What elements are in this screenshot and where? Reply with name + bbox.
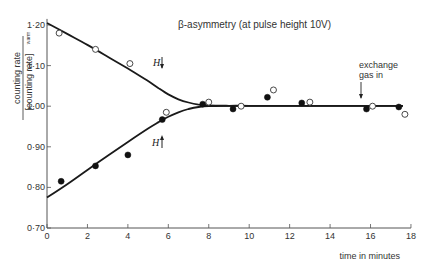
- y-tick-label: 0·80: [27, 182, 45, 192]
- exchange-label-line2: gas in: [359, 70, 383, 80]
- y-axis-label: counting rate [counting rate] warm: [12, 32, 34, 120]
- filled-data-point: [264, 94, 270, 100]
- filled-data-point: [159, 117, 165, 123]
- h-up-annotation: H: [151, 135, 164, 148]
- h-down-label: H: [152, 57, 161, 68]
- y-label-subscript: warm: [25, 32, 31, 44]
- chart-title: β-asymmetry (at pulse height 10V): [178, 19, 331, 30]
- data-points: [56, 30, 408, 184]
- h-up-label: H: [151, 137, 160, 148]
- h-down-annotation: H: [152, 57, 164, 69]
- axes: 0246810121416180·700·800·901·001·101·20: [27, 19, 416, 241]
- y-tick-label: 0·90: [27, 142, 45, 152]
- x-axis-label: time in minutes: [339, 251, 400, 261]
- y-label-denominator: [counting rate]: [24, 53, 34, 110]
- filled-data-point: [363, 106, 369, 112]
- y-tick-label: 0·70: [27, 223, 45, 233]
- open-data-point: [270, 87, 276, 93]
- fit-curves: [47, 23, 403, 198]
- open-data-point: [307, 99, 313, 105]
- open-data-point: [163, 109, 169, 115]
- open-data-point: [402, 111, 408, 117]
- y-tick-label: 1·20: [27, 20, 45, 30]
- asymmetry-chart: 0246810121416180·700·800·901·001·101·20 …: [0, 0, 428, 270]
- open-data-point: [370, 103, 376, 109]
- filled-data-point: [396, 104, 402, 110]
- x-tick-label: 16: [366, 231, 376, 241]
- x-tick-label: 10: [244, 231, 254, 241]
- open-data-point: [56, 30, 62, 36]
- filled-data-point: [93, 163, 99, 169]
- fit-curve: [47, 23, 403, 106]
- fit-curve: [47, 106, 403, 198]
- exchange-label-line1: exchange: [359, 60, 398, 70]
- open-data-point: [206, 99, 212, 105]
- exchange-gas-annotation: exchange gas in: [359, 60, 398, 99]
- arrow-up-head-icon: [160, 135, 164, 140]
- x-tick-label: 6: [166, 231, 171, 241]
- open-data-point: [238, 103, 244, 109]
- x-tick-label: 2: [85, 231, 90, 241]
- x-tick-label: 14: [325, 231, 335, 241]
- arrow-down-head-icon: [160, 64, 164, 69]
- filled-data-point: [200, 101, 206, 107]
- filled-data-point: [125, 152, 131, 158]
- x-tick-label: 12: [285, 231, 295, 241]
- filled-data-point: [230, 106, 236, 112]
- filled-data-point: [58, 178, 64, 184]
- filled-data-point: [299, 100, 305, 106]
- y-label-numerator: counting rate: [12, 52, 22, 104]
- x-tick-label: 18: [406, 231, 416, 241]
- x-tick-label: 0: [44, 231, 49, 241]
- x-tick-label: 4: [125, 231, 130, 241]
- exchange-arrow-head-icon: [359, 94, 363, 99]
- open-data-point: [93, 46, 99, 52]
- x-tick-label: 8: [206, 231, 211, 241]
- open-data-point: [127, 61, 133, 67]
